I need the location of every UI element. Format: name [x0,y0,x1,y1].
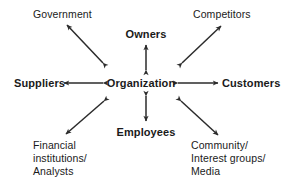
node-community-interest-groups-media: Community/ Interest groups/ Media [191,139,266,179]
node-customers: Customers [222,77,280,90]
connector-organization-government [67,25,103,63]
node-employees: Employees [117,126,176,139]
node-community-line-1: Community/ [191,139,266,152]
node-competitors: Competitors [193,8,251,21]
node-owners: Owners [126,28,167,41]
diagram-canvas: Organization Owners Suppliers Customers … [0,0,293,184]
node-suppliers: Suppliers [14,77,65,90]
node-community-line-2: Interest groups/ [191,152,266,165]
node-financial-line-3: Analysts [33,165,87,178]
node-community-line-3: Media [191,165,266,178]
node-financial-line-1: Financial [33,139,87,152]
node-government: Government [33,8,92,21]
node-financial-institutions-analysts: Financial institutions/ Analysts [33,139,87,179]
node-financial-line-2: institutions/ [33,152,87,165]
connector-organization-community [181,101,218,135]
connector-organization-financial [66,101,104,134]
node-organization: Organization [107,77,175,90]
connector-organization-competitors [182,26,221,63]
